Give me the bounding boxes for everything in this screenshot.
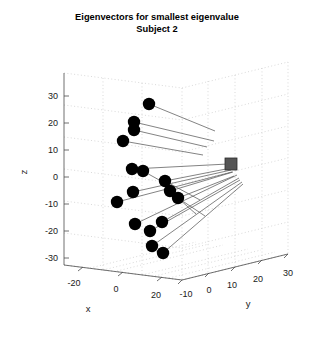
y-tick-10: 10 [227, 280, 237, 290]
y-tick-0: 0 [206, 285, 211, 295]
data-point-marker [143, 98, 155, 110]
data-point-marker [172, 192, 184, 204]
y-tick-m10: -10 [179, 289, 192, 299]
plot-canvas: Eigenvectors for smallest eigenvalue Sub… [0, 0, 314, 345]
data-point-marker [137, 165, 149, 177]
y-axis-label: y [246, 298, 251, 309]
x-axis-ticks: -20 0 20 [67, 267, 162, 300]
z-tick-m10: -10 [45, 199, 58, 209]
z-tick-20: 20 [48, 118, 58, 128]
eigenvector-line [134, 130, 207, 147]
data-point-marker [156, 216, 168, 228]
data-point-marker [126, 163, 138, 175]
data-point-marker [157, 247, 169, 259]
y-tick-30: 30 [283, 268, 293, 278]
x-axis-label: x [86, 303, 91, 314]
data-point-markers [111, 98, 184, 259]
data-point-marker [129, 218, 141, 230]
z-tick-10: 10 [48, 145, 58, 155]
z-tick-m30: -30 [45, 253, 58, 263]
x-tick-m20: -20 [67, 278, 80, 288]
data-point-marker [111, 196, 123, 208]
eigenvector-line [134, 122, 214, 141]
x-tick-0: 0 [113, 284, 118, 294]
x-tick-20: 20 [151, 290, 161, 300]
z-tick-30: 30 [48, 91, 58, 101]
data-point-marker [127, 186, 139, 198]
chart-title-line2: Subject 2 [136, 24, 177, 34]
z-axis-ticks: 30 20 10 0 -10 -20 -30 [45, 91, 69, 263]
data-point-marker [146, 240, 158, 252]
eigenvector-line [149, 104, 215, 131]
z-tick-m20: -20 [45, 226, 58, 236]
axis-lines [64, 73, 288, 280]
centroid-square-marker [225, 158, 237, 170]
z-axis-label: z [18, 169, 29, 174]
figure-3d-scatter: Eigenvectors for smallest eigenvalue Sub… [0, 0, 314, 345]
eigenvector-line [178, 176, 234, 198]
z-tick-0: 0 [53, 172, 58, 182]
grid-right-wall [182, 62, 288, 280]
chart-title-line1: Eigenvectors for smallest eigenvalue [75, 12, 239, 22]
data-point-marker [128, 124, 140, 136]
eigenvector-line [135, 175, 237, 224]
data-point-marker [144, 225, 156, 237]
data-point-marker [117, 135, 129, 147]
y-tick-20: 20 [253, 274, 263, 284]
